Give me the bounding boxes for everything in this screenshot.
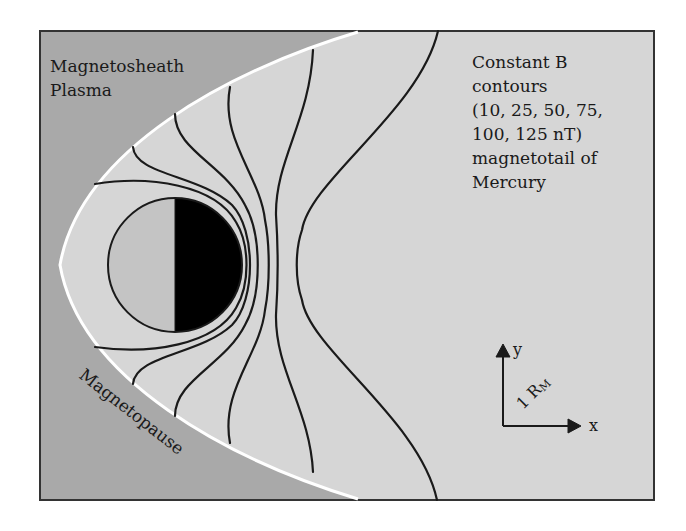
magnetosheath-label-line1: Magnetosheath xyxy=(50,56,184,76)
magnetosheath-label-line2: Plasma xyxy=(50,80,112,100)
y-axis-label: y xyxy=(512,340,522,359)
planet-mercury xyxy=(108,198,242,332)
mercury-magnetotail-diagram: Magnetosheath Plasma Magnetopause Consta… xyxy=(0,0,686,531)
x-axis-label: x xyxy=(589,416,598,435)
